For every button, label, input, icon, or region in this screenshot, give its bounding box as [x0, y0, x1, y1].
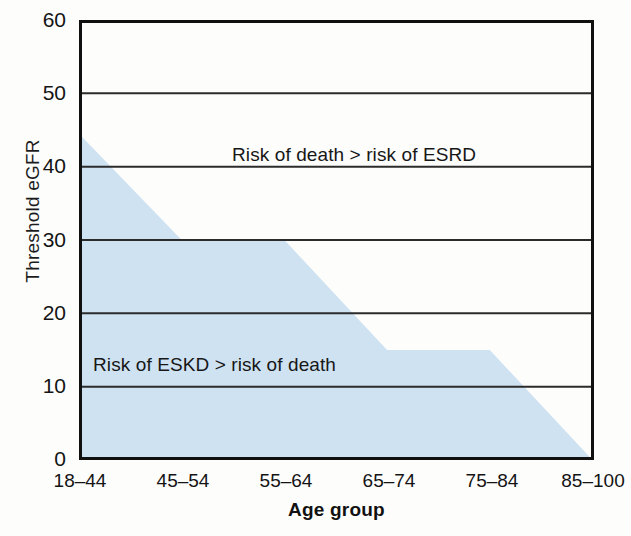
- x-tick-label-65-74: 65–74: [329, 471, 449, 490]
- annotation-risk-of-death: Risk of death > risk of ESRD: [232, 144, 476, 166]
- x-tick-label-85-100: 85–100: [533, 471, 631, 490]
- shaded-area-risk-region: [79, 134, 594, 460]
- x-tick-label-45-54: 45–54: [123, 471, 243, 490]
- y-tick-label-0: 0: [14, 448, 66, 469]
- y-tick-label-60: 60: [14, 9, 66, 30]
- y-axis-title: Threshold eGFR: [22, 81, 44, 341]
- plot-area: Risk of death > risk of ESRD Risk of ESK…: [79, 20, 594, 460]
- x-axis-title: Age group: [79, 499, 594, 521]
- chart-figure: Threshold eGFR: [0, 0, 631, 536]
- x-tick-label-75-84: 75–84: [432, 471, 552, 490]
- y-tick-label-10: 10: [14, 375, 66, 396]
- annotation-risk-of-eskd: Risk of ESKD > risk of death: [93, 354, 336, 376]
- x-tick-label-55-64: 55–64: [226, 471, 346, 490]
- plot-svg: [79, 20, 594, 460]
- x-tick-label-18-44: 18–44: [20, 471, 140, 490]
